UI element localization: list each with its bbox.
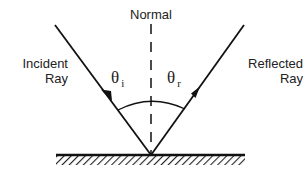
theta-r-symbol: θ bbox=[167, 68, 175, 87]
incident-label-line2: Ray bbox=[8, 71, 68, 86]
mirror-hatching bbox=[56, 156, 245, 165]
incident-label-line1: Incident bbox=[8, 56, 68, 71]
theta-r-label: θr bbox=[167, 68, 181, 89]
theta-i-symbol: θ bbox=[111, 68, 119, 87]
incident-arrow-icon bbox=[101, 90, 112, 102]
theta-i-subscript: i bbox=[121, 77, 124, 89]
reflected-label-line2: Ray bbox=[231, 71, 303, 86]
incident-ray-label: Incident Ray bbox=[8, 56, 68, 86]
theta-r-subscript: r bbox=[177, 77, 181, 89]
reflected-ray-label: Reflected Ray bbox=[231, 56, 303, 86]
theta-i-label: θi bbox=[111, 68, 124, 89]
normal-label: Normal bbox=[130, 7, 172, 22]
reflected-label-line1: Reflected bbox=[231, 56, 303, 71]
reflection-diagram bbox=[0, 0, 306, 182]
